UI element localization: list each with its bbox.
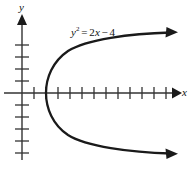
parabola-figure: y x y2=2x−4	[0, 0, 192, 171]
equation-rhs-operator: −	[100, 26, 109, 38]
parabola-upper-arrowhead	[166, 27, 179, 38]
equation-equals-sign: =	[80, 26, 89, 38]
parabola-upper-branch	[46, 33, 171, 94]
x-axis-label: x	[182, 87, 187, 98]
parabola-lower-branch	[46, 93, 171, 154]
parabola-lower-arrowhead	[166, 149, 179, 160]
x-axis-arrowhead	[172, 88, 182, 99]
equation-annotation: y2=2x−4	[71, 27, 115, 38]
y-axis-label: y	[19, 2, 24, 13]
y-axis-arrowhead	[17, 14, 27, 25]
equation-rhs-constant: 4	[109, 26, 115, 38]
